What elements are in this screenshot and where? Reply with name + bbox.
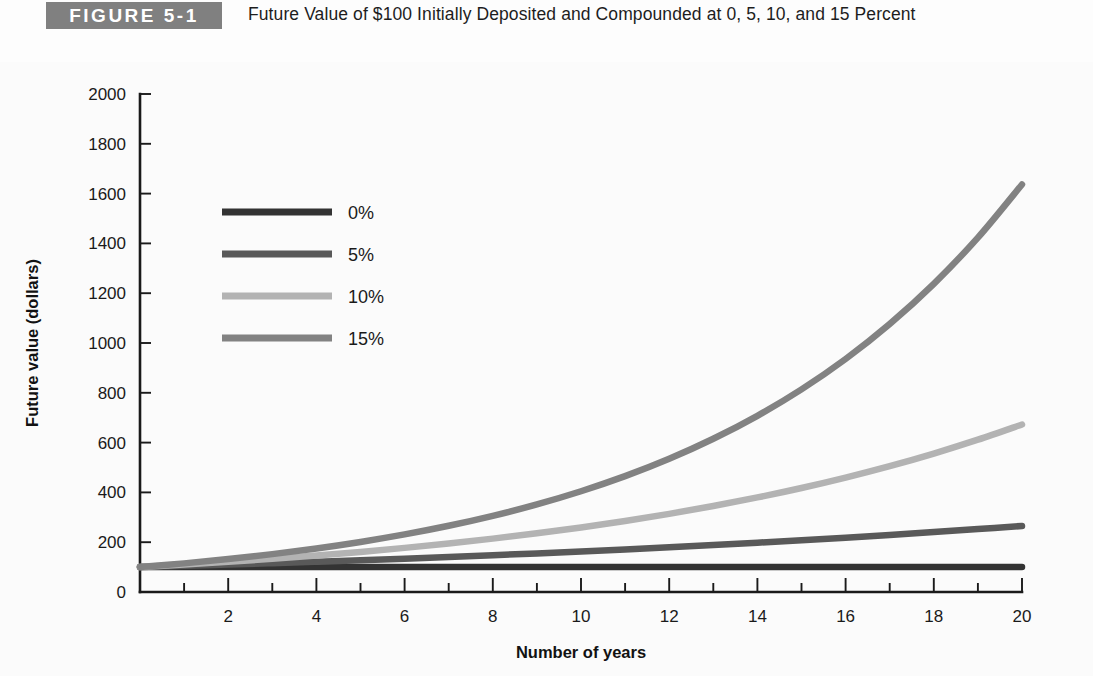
chart-series-group [140, 184, 1022, 567]
legend-label-15pct: 15% [348, 329, 384, 349]
legend-label-0pct: 0% [348, 203, 374, 223]
x-tick-label: 2 [223, 607, 232, 626]
x-tick-label: 12 [660, 607, 679, 626]
y-axis-title-group: Future value (dollars) [23, 259, 41, 427]
legend-label-5pct: 5% [348, 245, 374, 265]
chart-figure: Future value (dollars) Number of years 0… [0, 62, 1093, 676]
figure-number-badge: FIGURE 5-1 [46, 2, 222, 29]
x-tick-label: 14 [748, 607, 767, 626]
x-tick-label: 10 [572, 607, 591, 626]
chart-legend: 0%5%10%15% [222, 203, 384, 349]
x-axis-title-group: Number of years [516, 643, 646, 661]
y-axis-title: Future value (dollars) [23, 259, 41, 427]
y-axis-ticks: 0200400600800100012001400160018002000 [88, 85, 151, 602]
x-axis-ticks: 2468101214161820 [140, 578, 1031, 626]
y-tick-label: 1800 [88, 135, 126, 154]
series-line-10pct [140, 425, 1022, 568]
figure-header: FIGURE 5-1 Future Value of $100 Initiall… [0, 0, 1093, 62]
y-tick-label: 1600 [88, 185, 126, 204]
y-tick-label: 1000 [88, 334, 126, 353]
figure-root: FIGURE 5-1 Future Value of $100 Initiall… [0, 0, 1093, 676]
y-tick-label: 200 [98, 533, 126, 552]
series-line-15pct [140, 184, 1022, 567]
y-tick-label: 1400 [88, 234, 126, 253]
y-tick-label: 400 [98, 483, 126, 502]
x-tick-label: 6 [400, 607, 409, 626]
y-tick-label: 0 [117, 583, 126, 602]
x-tick-label: 18 [924, 607, 943, 626]
y-tick-label: 600 [98, 434, 126, 453]
y-tick-label: 2000 [88, 85, 126, 104]
x-tick-label: 16 [836, 607, 855, 626]
x-tick-label: 8 [488, 607, 497, 626]
legend-label-10pct: 10% [348, 287, 384, 307]
y-tick-label: 800 [98, 384, 126, 403]
x-tick-label: 4 [312, 607, 321, 626]
axis-lines [140, 94, 1022, 592]
figure-title: Future Value of $100 Initially Deposited… [248, 2, 948, 27]
x-tick-label: 20 [1013, 607, 1032, 626]
future-value-line-chart: Future value (dollars) Number of years 0… [0, 62, 1093, 676]
y-tick-label: 1200 [88, 284, 126, 303]
x-axis-title: Number of years [516, 643, 646, 661]
